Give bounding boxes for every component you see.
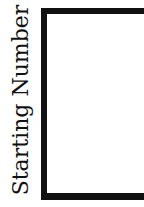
plot-frame (41, 8, 144, 200)
y-axis-label: Starting Number (8, 5, 33, 196)
